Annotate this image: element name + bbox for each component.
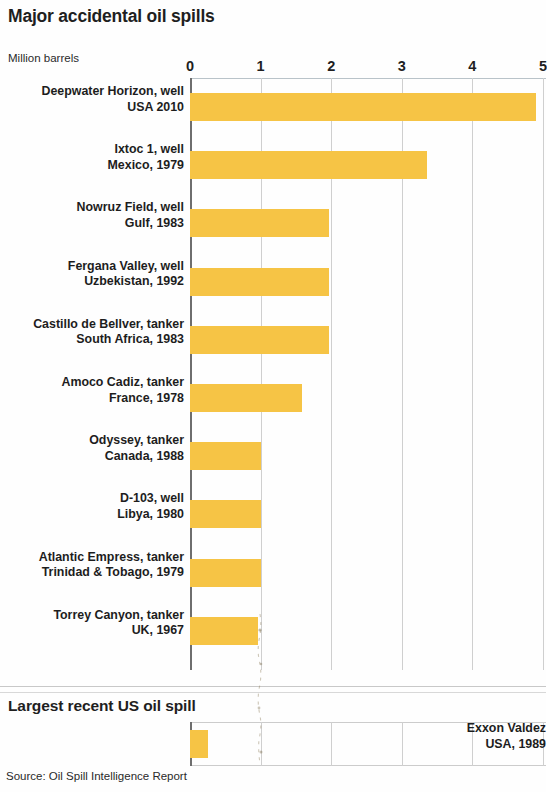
category-sublabel: Libya, 1980 [0,507,184,523]
category-name: Deepwater Horizon, well [0,84,184,100]
category-sublabel: Canada, 1988 [0,449,184,465]
bar [190,617,258,645]
bar-row [190,442,546,470]
category-sublabel: South Africa, 1983 [0,332,184,348]
bar-row [190,93,546,121]
x-tick-label: 1 [257,58,265,74]
category-name: Amoco Cadiz, tanker [0,375,184,391]
category-sublabel: Gulf, 1983 [0,216,184,232]
x-tick-label: 4 [468,58,476,74]
secondary-bar [190,730,208,758]
secondary-category-label: Exxon ValdezUSA, 1989 [362,721,546,752]
main-plot-area [190,78,546,670]
category-sublabel: USA 2010 [0,100,184,116]
category-name: Torrey Canyon, tanker [0,608,184,624]
category-name: Ixtoc 1, well [0,142,184,158]
category-sublabel: Mexico, 1979 [0,158,184,174]
secondary-category-sublabel: USA, 1989 [362,737,546,753]
section-divider-secondary [0,692,546,693]
x-tick-label: 0 [186,58,194,74]
category-sublabel: France, 1978 [0,391,184,407]
bar-row [190,384,546,412]
category-label: D-103, wellLibya, 1980 [0,491,184,522]
category-label: Torrey Canyon, tankerUK, 1967 [0,608,184,639]
bar-row [190,209,546,237]
category-label: Atlantic Empress, tankerTrinidad & Tobag… [0,550,184,581]
category-label: Amoco Cadiz, tankerFrance, 1978 [0,375,184,406]
bar [190,151,427,179]
category-sublabel: UK, 1967 [0,623,184,639]
bar [190,442,261,470]
secondary-gridline [331,722,332,766]
category-label: Deepwater Horizon, wellUSA 2010 [0,84,184,115]
source-note: Source: Oil Spill Intelligence Report [6,770,187,782]
x-tick-label: 5 [539,58,547,74]
bar [190,268,329,296]
x-tick-label: 3 [398,58,406,74]
category-name: Odyssey, tanker [0,433,184,449]
category-name: Castillo de Bellver, tanker [0,317,184,333]
bar [190,326,329,354]
bar [190,93,536,121]
bar-row [190,500,546,528]
bar [190,209,329,237]
section-divider [0,686,546,687]
category-label: Ixtoc 1, wellMexico, 1979 [0,142,184,173]
category-label: Fergana Valley, wellUzbekistan, 1992 [0,259,184,290]
category-name: Fergana Valley, well [0,259,184,275]
category-label: Castillo de Bellver, tankerSouth Africa,… [0,317,184,348]
x-tick-label: 2 [327,58,335,74]
bar-row [190,326,546,354]
bar [190,500,261,528]
secondary-gridline [261,722,262,766]
category-name: Atlantic Empress, tanker [0,550,184,566]
bar-row [190,151,546,179]
category-sublabel: Trinidad & Tobago, 1979 [0,565,184,581]
bar [190,384,302,412]
secondary-rule-bottom [190,765,546,766]
bar-row [190,559,546,587]
bar-row [190,268,546,296]
x-axis-tick-labels: 012345 [0,0,546,26]
category-name: D-103, well [0,491,184,507]
category-label: Nowruz Field, wellGulf, 1983 [0,200,184,231]
bar-row [190,617,546,645]
bar [190,559,261,587]
category-sublabel: Uzbekistan, 1992 [0,274,184,290]
category-name: Nowruz Field, well [0,200,184,216]
secondary-category-name: Exxon Valdez [362,721,546,737]
category-label: Odyssey, tankerCanada, 1988 [0,433,184,464]
axis-top-rule [190,78,546,79]
section-title: Largest recent US oil spill [8,697,196,715]
axis-unit-label: Million barrels [8,52,79,64]
